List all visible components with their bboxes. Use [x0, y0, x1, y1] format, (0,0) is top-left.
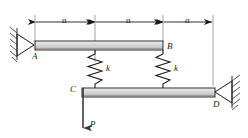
force-label-p: P	[90, 120, 96, 129]
point-label-b: B	[167, 42, 173, 51]
point-label-c: C	[70, 85, 76, 94]
support-a-hatching	[10, 27, 17, 62]
support-a-group	[10, 27, 34, 62]
dimension-label-1: a	[62, 16, 67, 25]
point-label-d: D	[213, 100, 220, 109]
dimension-label-2: a	[126, 16, 131, 25]
figure-canvas	[0, 0, 248, 138]
bottom-bar-group	[82, 88, 215, 97]
spring-right	[156, 50, 170, 88]
support-d-hatching	[232, 75, 240, 110]
top-bar-group	[35, 41, 163, 50]
dimension-label-3: a	[185, 16, 190, 25]
spring-label-k-right: k	[174, 64, 178, 73]
point-label-a: A	[32, 52, 38, 61]
spring-label-k-left: k	[106, 64, 110, 73]
dimension-line-group	[35, 15, 213, 86]
mechanics-figure: a a a A B C D k k P	[0, 0, 248, 138]
